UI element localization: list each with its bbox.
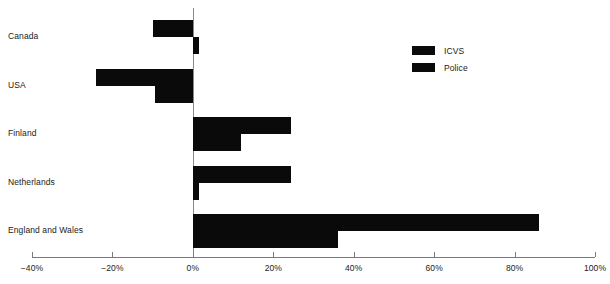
x-axis-line (32, 257, 595, 258)
category-label: Finland (8, 128, 37, 138)
x-tick-mark (112, 252, 113, 257)
x-tick-label: 40% (345, 263, 362, 273)
bar-icvs-canada (153, 20, 193, 37)
bar-police-usa (155, 86, 193, 103)
x-tick-label: 80% (506, 263, 523, 273)
x-tick-mark (434, 252, 435, 257)
category-label: Netherlands (8, 177, 55, 187)
bar-police-england-and-wales (193, 231, 338, 248)
plot-area: CanadaUSAFinlandNetherlandsEngland and W… (0, 0, 610, 250)
category-label: Canada (8, 31, 38, 41)
chart-legend: ICVS Police (412, 42, 468, 76)
bar-icvs-england-and-wales (193, 214, 539, 231)
x-tick-label: −20% (101, 263, 123, 273)
x-tick-label: 60% (425, 263, 442, 273)
bar-icvs-usa (96, 69, 193, 86)
x-tick-mark (354, 252, 355, 257)
x-tick-label: 20% (265, 263, 282, 273)
bar-chart: CanadaUSAFinlandNetherlandsEngland and W… (0, 0, 610, 284)
bar-icvs-finland (193, 117, 292, 134)
x-tick-mark (595, 252, 596, 257)
x-tick-label: 0% (187, 263, 200, 273)
legend-item-icvs: ICVS (412, 42, 468, 59)
x-tick-mark (193, 252, 194, 257)
bar-icvs-netherlands (193, 166, 292, 183)
category-label: England and Wales (8, 225, 83, 235)
category-label: USA (8, 80, 26, 90)
legend-item-police: Police (412, 59, 468, 76)
x-tick-label: 100% (584, 263, 606, 273)
bar-police-netherlands (193, 183, 199, 200)
legend-label-icvs: ICVS (444, 46, 464, 56)
bar-police-finland (193, 134, 241, 151)
legend-swatch-icvs (412, 46, 435, 55)
bar-police-canada (193, 37, 199, 54)
legend-label-police: Police (444, 63, 468, 73)
x-tick-mark (515, 252, 516, 257)
x-tick-mark (273, 252, 274, 257)
x-tick-label: −40% (21, 263, 43, 273)
legend-swatch-police (412, 63, 435, 72)
x-tick-mark (32, 252, 33, 257)
